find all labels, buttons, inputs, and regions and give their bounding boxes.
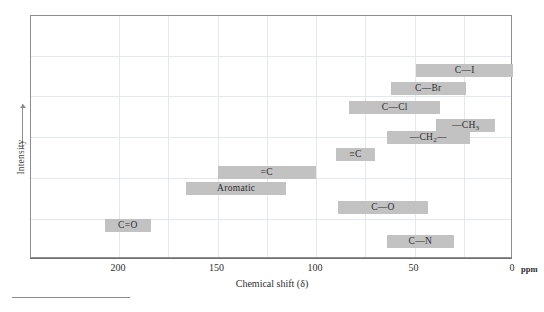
x-tick-label-200: 200 [98,262,138,273]
x-tick-label-150: 150 [197,262,237,273]
x-tick-label-50: 50 [394,262,434,273]
bar-c-cl-label: C—Cl [382,103,408,113]
horizontal-gridline [31,96,511,97]
bar-double-c-label: =C [261,168,273,178]
horizontal-gridline [31,219,511,220]
bar-aromatic-label: Aromatic [217,184,255,194]
plot-area: C—IC—BrC—Cl—CH3—CH2—≡C=CAromaticC—OC=OC—… [30,15,512,258]
bar-double-c: =C [218,166,317,179]
bar-triple-c-label: ≡C [349,150,361,160]
bar-ch2: —CH2— [387,131,470,144]
x-tick-label-0: 0 [492,262,532,273]
x-axis-label: Chemical shift (δ) [0,278,544,289]
chemical-shift-chart: Intensity C—IC—BrC—Cl—CH3—CH2—≡C=CAromat… [0,0,544,312]
bar-c-br-label: C—Br [415,84,442,94]
bar-c-cl: C—Cl [349,101,440,114]
bar-aromatic: Aromatic [186,182,286,195]
bar-triple-c: ≡C [336,148,375,161]
y-axis-label-group: Intensity [8,104,30,220]
y-axis-label: Intensity [16,104,26,210]
footnote-divider [12,297,130,298]
bar-c-br: C—Br [391,82,466,95]
bar-c-double-o-label: C=O [118,221,137,231]
bar-c-n: C—N [387,235,454,248]
bar-c-o: C—O [338,201,429,214]
bar-c-i: C—I [416,64,513,77]
bar-c-n-label: C—N [409,237,433,247]
bar-c-i-label: C—I [455,66,475,76]
bar-ch2-label: —CH2— [410,133,447,143]
bar-ch3-label: —CH3 [452,121,479,131]
x-tick-label-100: 100 [295,262,335,273]
bar-c-o-label: C—O [371,203,395,213]
bar-c-double-o: C=O [105,219,150,232]
horizontal-gridline [31,56,511,57]
x-axis-line [30,258,512,259]
